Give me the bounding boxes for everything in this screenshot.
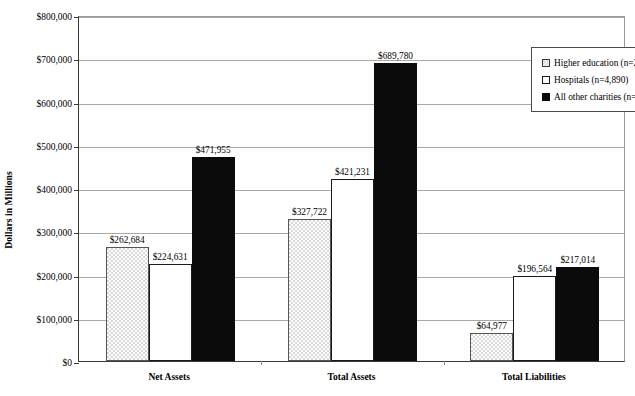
bar-higher-education-total-assets[interactable]: $327,722	[288, 219, 331, 361]
category-label-net-assets: Net Assets	[148, 372, 189, 382]
bar-value-label: $421,231	[335, 167, 370, 177]
plot-area: $800,000$700,000$600,000$500,000$400,000…	[78, 16, 625, 362]
legend-swatch-icon-higher-education	[542, 59, 550, 67]
y-tick-mark	[74, 363, 79, 364]
bar-all-other-charities-net-assets[interactable]: $471,955	[192, 157, 235, 361]
legend-swatch-icon-all-other-charities	[542, 93, 550, 101]
y-tick-label: $800,000	[36, 12, 72, 22]
legend: Higher education (n=2,270) Hospitals (n=…	[531, 47, 635, 112]
y-tick-label: $600,000	[36, 99, 72, 109]
bar-value-label: $217,014	[560, 255, 595, 265]
legend-item-higher-education[interactable]: Higher education (n=2,270)	[542, 54, 635, 71]
y-tick-label: $200,000	[36, 272, 72, 282]
y-axis-title: Dollars in Millions	[4, 140, 22, 280]
bar-value-label: $689,780	[378, 51, 413, 61]
category-divider	[261, 361, 262, 365]
bar-all-other-charities-total-liabilities[interactable]: $217,014	[556, 267, 599, 361]
bar-value-label: $224,631	[153, 252, 188, 262]
category-label-total-liabilities: Total Liabilities	[502, 372, 566, 382]
bar-hospitals-total-assets[interactable]: $421,231	[331, 179, 374, 361]
legend-swatch-icon-hospitals	[542, 76, 550, 84]
y-tick-label: $100,000	[36, 315, 72, 325]
y-tick-label: $700,000	[36, 55, 72, 65]
y-tick-label: $300,000	[36, 228, 72, 238]
bar-value-label: $327,722	[292, 207, 327, 217]
bar-chart: Dollars in Millions $800,000$700,000$600…	[0, 0, 635, 396]
y-tick-label: $400,000	[36, 185, 72, 195]
legend-item-hospitals[interactable]: Hospitals (n=4,890)	[542, 71, 635, 88]
legend-label-all-other-charities: All other charities (n=219,024)	[554, 92, 635, 102]
bar-hospitals-total-liabilities[interactable]: $196,564	[513, 276, 556, 361]
category-label-total-assets: Total Assets	[328, 372, 376, 382]
bar-value-label: $64,977	[477, 321, 507, 331]
y-tick-label: $0	[63, 358, 73, 368]
bar-value-label: $262,684	[110, 235, 145, 245]
bar-value-label: $471,955	[196, 145, 231, 155]
bar-hospitals-net-assets[interactable]: $224,631	[149, 264, 192, 361]
bar-all-other-charities-total-assets[interactable]: $689,780	[374, 63, 417, 361]
category-divider	[444, 361, 445, 365]
bar-higher-education-net-assets[interactable]: $262,684	[106, 247, 149, 361]
bar-higher-education-total-liabilities[interactable]: $64,977	[470, 333, 513, 361]
bar-value-label: $196,564	[517, 264, 552, 274]
legend-item-all-other-charities[interactable]: All other charities (n=219,024)	[542, 88, 635, 105]
y-tick-label: $500,000	[36, 142, 72, 152]
legend-label-hospitals: Hospitals (n=4,890)	[554, 75, 628, 85]
legend-label-higher-education: Higher education (n=2,270)	[554, 58, 635, 68]
